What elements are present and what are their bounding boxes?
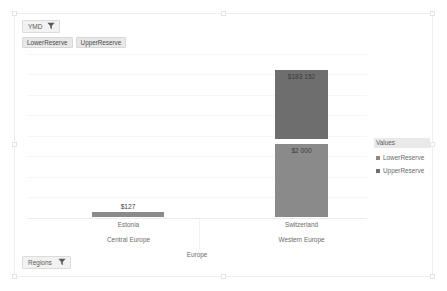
legend-swatch-icon [376,156,380,160]
axis-level-country: Estonia Switzerland [27,221,367,235]
chart-visual-container[interactable]: YMD LowerReserve UpperReserve $127 $2 00… [14,13,433,277]
resize-handle-bottom-right[interactable] [430,274,435,279]
category-axis: Estonia Switzerland Central Europe Weste… [27,218,367,264]
resize-handle-middle-left[interactable] [12,142,17,147]
chip-lower-reserve[interactable]: LowerReserve [22,37,73,48]
measure-chip-row: LowerReserve UpperReserve [22,37,126,48]
gridline [27,54,367,55]
bar-switzerland-lower-reserve[interactable] [275,144,328,217]
legend: Values LowerReserve UpperReserve [374,138,430,174]
axis-label-estonia: Estonia [76,221,181,228]
legend-swatch-icon [376,169,380,173]
bar-estonia-lower-reserve[interactable] [92,212,164,217]
axis-level-region: Europe [27,251,367,265]
legend-label-lower-reserve: LowerReserve [383,154,424,161]
axis-label-europe: Europe [27,251,367,258]
plot-area: $127 $2 000 $183 152 [27,54,367,218]
legend-item-lower-reserve[interactable]: LowerReserve [374,154,430,161]
resize-handle-bottom-center[interactable] [221,274,226,279]
slicer-regions-label: Regions [28,259,52,266]
slicer-ymd-label: YMD [28,23,42,30]
bar-label-switzerland-upper-reserve: $183 152 [275,73,328,80]
resize-handle-top-center[interactable] [221,11,226,16]
chip-upper-reserve[interactable]: UpperReserve [76,37,127,48]
axis-label-central-europe: Central Europe [76,236,181,243]
resize-handle-top-right[interactable] [430,11,435,16]
funnel-icon[interactable] [47,22,55,31]
axis-level-subregion: Central Europe Western Europe [27,236,367,250]
slicer-regions[interactable]: Regions [22,256,71,269]
axis-label-western-europe: Western Europe [249,236,354,243]
legend-label-upper-reserve: UpperReserve [383,167,424,174]
bar-label-estonia-lower-reserve: $127 [92,203,164,210]
axis-label-switzerland: Switzerland [249,221,354,228]
bar-label-switzerland-lower-reserve: $2 000 [275,147,328,154]
legend-item-upper-reserve[interactable]: UpperReserve [374,167,430,174]
resize-handle-top-left[interactable] [12,11,17,16]
resize-handle-middle-right[interactable] [430,142,435,147]
legend-title: Values [374,138,430,148]
slicer-ymd[interactable]: YMD [22,20,60,33]
funnel-icon[interactable] [58,258,66,267]
bar-switzerland-upper-reserve[interactable] [275,70,328,139]
resize-handle-bottom-left[interactable] [12,274,17,279]
